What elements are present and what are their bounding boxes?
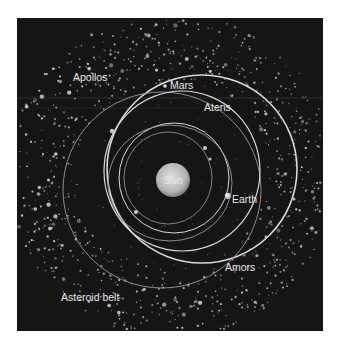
asteroid-dot [42,153,44,155]
asteroid-dot [77,90,79,92]
asteroid-dot [185,57,189,61]
asteroid-dot [156,208,157,209]
asteroid-dot [136,290,138,292]
asteroid-dot [262,82,263,83]
asteroid-dot [259,293,260,294]
asteroid-dot [258,267,259,268]
asteroid-dot [58,125,60,127]
asteroid-dot [298,201,299,202]
asteroid-dot [64,125,66,127]
label-sun: Sun [164,174,183,186]
asteroid-dot [284,190,286,192]
asteroid-dot [291,276,292,277]
asteroid-dot [68,117,70,119]
asteroid-dot [289,89,290,90]
asteroid-dot [291,116,293,118]
earth-icon [225,193,231,199]
asteroid-dot [267,302,268,303]
asteroid-on-orbit [110,129,114,133]
asteroid-dot [290,191,292,193]
asteroid-dot [217,65,219,67]
asteroid-dot [173,23,177,27]
asteroid-dot [55,164,56,165]
asteroid-dot [242,42,244,44]
asteroid-dot [272,292,274,294]
asteroid-dot [275,293,276,294]
asteroid-dot [175,319,176,320]
asteroid-dot [314,196,316,198]
asteroid-dot [212,49,214,51]
asteroid-dot [155,299,156,300]
asteroid-dot [243,69,245,71]
asteroid-dot [74,195,75,196]
asteroid-dot [242,285,243,286]
asteroid-dot [103,207,105,209]
asteroid-dot [294,86,296,88]
asteroid-dot [221,309,222,310]
asteroid-dot [70,164,71,165]
asteroid-dot [52,248,54,250]
asteroid-dot [117,51,119,53]
asteroid-dot [112,35,114,37]
asteroid-dot [80,285,82,287]
asteroid-dot [158,79,160,81]
asteroid-dot [266,123,267,124]
label-earth: Earth [232,193,257,205]
asteroid-dot [41,140,43,142]
asteroid-dot [179,141,180,142]
asteroid-dot [207,254,208,255]
asteroid-dot [98,205,99,206]
asteroid-dot [99,289,100,290]
asteroid-dot [248,46,250,48]
asteroid-dot [87,67,91,71]
asteroid-dot [194,78,195,79]
asteroid-dot [77,283,79,285]
asteroid-dot [312,185,314,187]
asteroid-dot [265,142,266,143]
asteroid-dot [205,281,207,283]
asteroid-dot [172,313,173,314]
asteroid-dot [87,274,89,276]
asteroid-dot [178,315,179,316]
asteroid-dot [241,292,243,294]
asteroid-dot [211,296,213,298]
asteroid-dot [95,59,96,60]
asteroid-dot [59,244,60,245]
asteroid-dot [126,69,128,71]
asteroid-dot [68,196,70,198]
asteroid-dot [121,259,122,260]
asteroid-dot [25,133,27,135]
asteroid-dot [306,122,308,124]
asteroid-dot [182,313,186,317]
asteroid-dot [133,56,134,57]
asteroid-dot [124,59,125,60]
asteroid-dot [74,232,76,234]
asteroid-dot [34,223,36,225]
asteroid-dot [66,62,68,64]
asteroid-dot [211,27,212,28]
asteroid-dot [241,241,243,243]
asteroid-dot [281,225,283,227]
asteroid-dot [73,141,75,143]
asteroid-dot [286,216,288,218]
asteroid-dot [93,57,95,59]
asteroid-dot [147,69,148,70]
asteroid-dot [49,160,51,162]
asteroid-dot [315,120,317,122]
asteroid-dot [142,147,143,148]
asteroid-dot [175,40,177,42]
asteroid-dot [234,296,236,298]
asteroid-dot [100,106,101,107]
asteroid-dot [84,227,86,229]
asteroid-dot [85,310,87,312]
asteroid-dot [178,52,179,53]
asteroid-dot [38,90,40,92]
asteroid-dot [119,78,121,80]
asteroid-dot [245,289,247,291]
asteroid-dot [26,152,27,153]
asteroid-dot [151,311,153,313]
asteroid-dot [266,287,268,289]
asteroid-dot [45,270,46,271]
asteroid-dot [247,34,250,37]
asteroid-dot [43,115,45,117]
